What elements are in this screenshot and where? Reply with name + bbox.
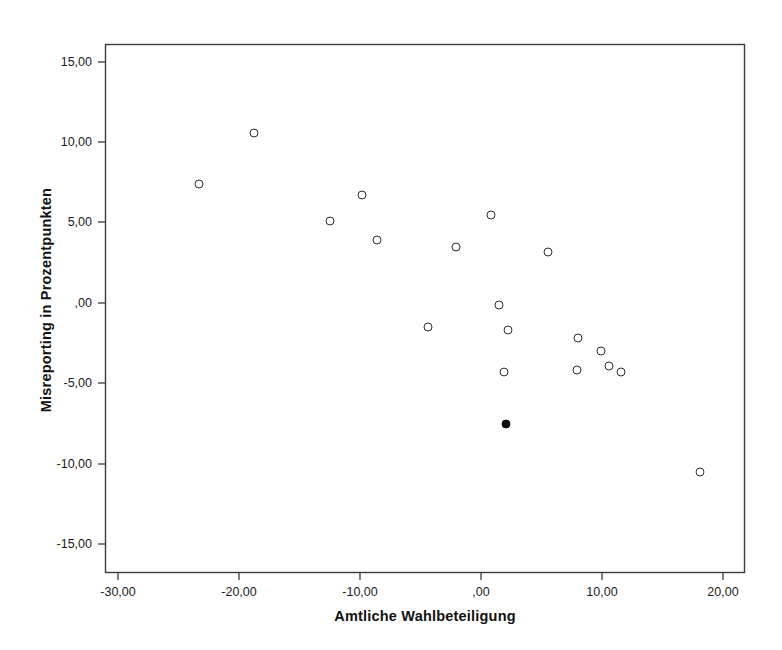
data-point	[503, 326, 512, 335]
data-point	[495, 300, 504, 309]
data-point	[249, 128, 258, 137]
data-point	[423, 323, 432, 332]
data-point	[573, 334, 582, 343]
x-tick-label: 20,00	[707, 585, 738, 599]
data-point	[195, 180, 204, 189]
scatter-plot: 15,00 10,00 5,00 ,00 -5,00 -10,00 -15,00…	[0, 0, 782, 650]
data-point	[358, 191, 367, 200]
data-point	[372, 236, 381, 245]
y-tick-label: 15,00	[36, 55, 92, 69]
data-point	[499, 368, 508, 377]
data-point	[617, 368, 626, 377]
data-point	[596, 347, 605, 356]
data-point	[543, 247, 552, 256]
plot-frame	[0, 0, 782, 650]
data-point	[572, 366, 581, 375]
plot-area-border	[106, 45, 745, 573]
data-point	[486, 210, 495, 219]
tick-marks	[98, 62, 723, 580]
y-axis-title: Misreporting in Prozentpunkten	[38, 90, 54, 510]
y-tick-label: -15,00	[36, 537, 92, 551]
data-point	[605, 361, 614, 370]
x-tick-label: -30,00	[100, 585, 135, 599]
x-axis-title: Amtliche Wahlbeteiligung	[105, 608, 745, 624]
data-point	[451, 242, 460, 251]
x-tick-label: ,00	[472, 585, 489, 599]
data-point	[696, 467, 705, 476]
data-point	[325, 217, 334, 226]
x-tick-label: 10,00	[586, 585, 617, 599]
x-tick-label: -20,00	[221, 585, 256, 599]
data-point-highlighted	[502, 419, 511, 428]
x-tick-label: -10,00	[342, 585, 377, 599]
